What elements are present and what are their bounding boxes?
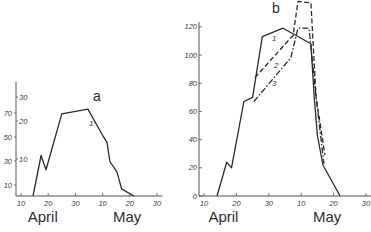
x-tick-label: 30 <box>265 199 274 208</box>
series-label: 3 <box>272 79 277 88</box>
panel-title: b <box>272 0 280 16</box>
y-tick-label-outer: 10 <box>4 181 13 190</box>
chart-panel-b: 102030102030AprilMay020406080100120b123 <box>184 0 371 225</box>
month-label: May <box>313 208 342 225</box>
month-label: May <box>113 208 142 225</box>
series-line-1 <box>217 28 340 196</box>
series-line-1 <box>33 109 134 196</box>
x-tick-label: 10 <box>297 199 306 208</box>
y-tick-label: 80 <box>189 79 198 88</box>
y-tick-label-outer: 70 <box>4 109 13 118</box>
x-tick-label: 30 <box>153 199 162 208</box>
y-tick-label: 60 <box>189 107 198 116</box>
x-tick-label: 20 <box>125 199 135 208</box>
y-tick-label: 120 <box>184 22 197 31</box>
series-line-2 <box>255 1 325 155</box>
x-tick-label: 20 <box>328 199 338 208</box>
series-label: 2 <box>273 61 279 70</box>
figure: 102030102030AprilMay10305070102030a1 102… <box>0 0 371 232</box>
y-tick-label-inner: 30 <box>19 93 28 102</box>
x-tick-label: 10 <box>98 199 107 208</box>
y-tick-label: 100 <box>184 51 197 60</box>
y-tick-label: 40 <box>189 135 198 144</box>
x-tick-label: 10 <box>17 199 26 208</box>
x-tick-label: 30 <box>362 199 371 208</box>
series-label: 1 <box>272 34 276 43</box>
x-tick-label: 20 <box>231 199 241 208</box>
month-label: April <box>28 208 58 225</box>
y-tick-label-outer: 50 <box>4 133 13 142</box>
y-tick-label: 20 <box>188 163 198 172</box>
x-tick-label: 30 <box>71 199 80 208</box>
month-label: April <box>208 208 238 225</box>
x-tick-label: 20 <box>43 199 53 208</box>
y-tick-label: 0 <box>193 192 198 201</box>
x-tick-label: 10 <box>200 199 209 208</box>
series-label: 1 <box>89 119 93 128</box>
y-tick-label-inner: 20 <box>18 117 28 126</box>
panel-title: a <box>93 88 101 104</box>
chart-panel-a: 102030102030AprilMay10305070102030a1 <box>4 82 163 225</box>
y-tick-label-outer: 30 <box>4 157 13 166</box>
y-tick-label-inner: 10 <box>19 155 28 164</box>
